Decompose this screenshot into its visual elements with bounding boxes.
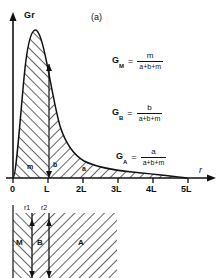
bar-boundary-label-r1: r1 [24, 204, 30, 211]
x-tick-label-4L: 4L [146, 184, 157, 194]
bar-boundary-label-r2: r2 [41, 204, 47, 211]
figure-panel-a: Gr r (a) 0 L 2L 3L 4L 5L m b a GM = m a+… [0, 0, 221, 278]
formula-GA: GA = a a+b+m [116, 148, 166, 166]
formula-GB-equals: = [127, 108, 132, 118]
region-label-m: m [27, 163, 33, 170]
formula-GB-fraction: b a+b+m [137, 104, 163, 122]
panel-caption: (a) [91, 13, 102, 22]
x-axis-label: r [199, 166, 202, 175]
x-tick-label-L: L [44, 184, 50, 194]
formula-GB: GB = b a+b+m [112, 104, 162, 122]
y-axis-label: Gr [24, 11, 35, 20]
formula-GB-symbol: GB [112, 107, 123, 119]
figure-canvas [0, 0, 221, 278]
formula-GB-denominator: a+b+m [137, 113, 163, 122]
region-label-a: a [82, 165, 86, 172]
formula-GM: GM = m a+b+m [112, 52, 163, 70]
bar-segment-label-M: M [16, 238, 23, 247]
formula-GA-equals: = [131, 152, 136, 162]
x-tick-label-2L: 2L [76, 184, 87, 194]
formula-GM-numerator: m [144, 52, 157, 61]
region-m-fill [13, 20, 49, 180]
formula-GA-numerator: a [148, 148, 158, 157]
formula-GA-fraction: a a+b+m [141, 148, 167, 166]
bar-segment-label-B: B [37, 238, 43, 247]
formula-GB-numerator: b [144, 104, 154, 113]
formula-GA-denominator: a+b+m [141, 157, 167, 166]
x-tick-label-5L: 5L [181, 184, 192, 194]
formula-GM-denominator: a+b+m [137, 61, 163, 70]
y-axis-arrowhead [10, 12, 17, 21]
x-axis-arrowhead [207, 175, 216, 182]
formula-GM-symbol: GM [112, 55, 124, 67]
formula-GM-fraction: m a+b+m [137, 52, 163, 70]
x-tick-label-0: 0 [10, 184, 15, 194]
x-tick-label-3L: 3L [111, 184, 122, 194]
region-label-b: b [53, 161, 57, 168]
formula-GA-symbol: GA [116, 151, 127, 163]
formula-GM-equals: = [128, 56, 133, 66]
bar-segment-label-A: A [78, 238, 84, 247]
bottom-classification-bar [13, 205, 117, 278]
